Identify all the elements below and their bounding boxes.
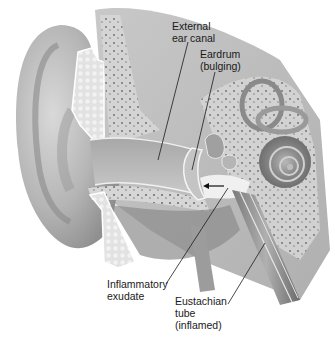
label-external-ear-canal: External ear canal <box>172 20 215 44</box>
label-eustachian-tube: Eustachian tube (inflamed) <box>175 295 227 331</box>
cochlea <box>259 136 311 188</box>
label-eardrum: Eardrum (bulging) <box>200 48 241 72</box>
label-inflammatory-exudate: Inflammatory exudate <box>107 278 168 302</box>
